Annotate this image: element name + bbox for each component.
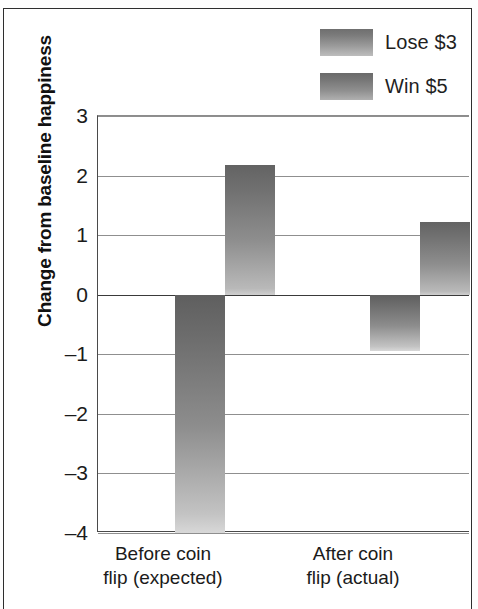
bar-win-group1: [225, 165, 275, 294]
bar-lose-group1: [175, 295, 225, 533]
legend-item-win: Win $5: [320, 68, 470, 104]
y-tick-label: 0: [76, 283, 88, 307]
gridline: –4: [98, 533, 469, 534]
gridline: –3: [98, 473, 469, 474]
gridline: 3: [98, 116, 469, 117]
legend-swatch-lose-icon: [320, 29, 373, 56]
y-tick-label: –3: [65, 461, 88, 485]
gridline: 2: [98, 176, 469, 177]
legend-label-win: Win $5: [385, 75, 448, 98]
y-tick-label: –4: [65, 521, 88, 545]
legend-label-lose: Lose $3: [385, 31, 457, 54]
legend-item-lose: Lose $3: [320, 24, 470, 60]
plot-area: 3210–1–2–3–4: [97, 115, 469, 532]
y-tick-label: –2: [65, 402, 88, 426]
bar-win-group2: [420, 222, 470, 295]
chart-figure: Lose $3 Win $5 Change from baseline happ…: [0, 0, 478, 609]
gridline: 1: [98, 235, 469, 236]
chart-legend: Lose $3 Win $5: [320, 24, 470, 112]
y-tick-label: –1: [65, 342, 88, 366]
y-tick-label: 2: [76, 164, 88, 188]
y-tick-label: 3: [76, 104, 88, 128]
x-tick-label-after: After coin flip (actual): [288, 542, 418, 590]
gridline: –2: [98, 414, 469, 415]
y-tick-label: 1: [76, 223, 88, 247]
y-axis-title: Change from baseline happiness: [34, 0, 56, 376]
legend-swatch-win-icon: [320, 73, 373, 100]
gridline: –1: [98, 354, 469, 355]
bar-lose-group2: [370, 295, 420, 352]
x-tick-label-before: Before coin flip (expected): [98, 542, 228, 590]
